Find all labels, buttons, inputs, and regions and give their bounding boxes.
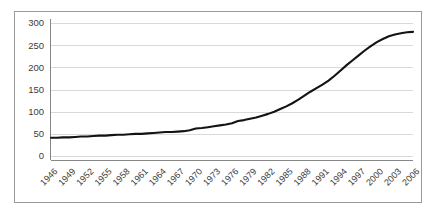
x-tick-label: 1979 [237, 166, 258, 187]
x-tick-label: 2003 [382, 166, 403, 187]
x-axis-tick-labels: 1946194919521955195819611964196719701973… [38, 166, 421, 187]
x-tick-label: 1952 [74, 166, 95, 187]
chart-figure: 050100150200250300 194619491952195519581… [14, 11, 422, 203]
x-tick-label: 1964 [147, 166, 168, 187]
y-tick-label: 150 [28, 84, 44, 95]
x-tick-label: 1976 [219, 166, 240, 187]
y-tick-label: 200 [28, 62, 44, 73]
y-tick-label: 100 [28, 106, 44, 117]
x-tick-label: 1967 [165, 166, 186, 187]
x-tick-label: 1985 [273, 166, 294, 187]
line-chart-plot: 050100150200250300 194619491952195519581… [15, 12, 421, 202]
x-tick-label: 1958 [111, 166, 132, 187]
x-tick-label: 1970 [183, 166, 204, 187]
data-series-line [51, 32, 413, 138]
x-tick-label: 2000 [364, 166, 385, 187]
x-tick-label: 1988 [292, 166, 313, 187]
x-tick-label: 1946 [38, 166, 59, 187]
x-tick-label: 2006 [400, 166, 421, 187]
x-tick-label: 1955 [92, 166, 113, 187]
x-tick-label: 1973 [201, 166, 222, 187]
y-tick-label: 250 [28, 40, 44, 51]
y-tick-label: 0 [39, 150, 44, 161]
y-tick-label: 50 [33, 128, 44, 139]
x-tick-label: 1961 [129, 166, 150, 187]
y-axis-tick-labels: 050100150200250300 [28, 17, 44, 161]
x-tick-label: 1991 [310, 166, 331, 187]
x-tick-label: 1982 [255, 166, 276, 187]
y-tick-label: 300 [28, 17, 44, 28]
x-tick-label: 1949 [56, 166, 77, 187]
x-tick-label: 1997 [346, 166, 367, 187]
x-tick-label: 1994 [328, 166, 349, 187]
